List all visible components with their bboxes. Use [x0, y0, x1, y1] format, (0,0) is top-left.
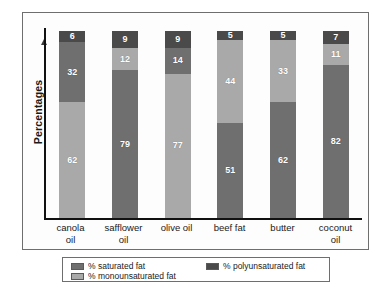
legend-label-polyunsaturated: % polyunsaturated fat [223, 261, 305, 271]
bar-segment-value: 9 [175, 35, 180, 44]
legend-label-monounsaturated: % monounsaturated fat [88, 271, 176, 281]
x-axis-label-line2: oil [300, 234, 372, 246]
x-axis-labels: canolaoilsaffloweroilolive oilbeef fatbu… [44, 222, 362, 250]
bar-beef-fat: 54451 [217, 31, 243, 218]
legend: % saturated fat % monounsaturated fat % … [62, 257, 330, 282]
bar-segment-sat: 79 [112, 70, 138, 218]
bar-segment-poly: 7 [323, 31, 349, 44]
bar-segment-poly: 5 [270, 31, 296, 40]
bar-butter: 53362 [270, 31, 296, 218]
legend-label-saturated: % saturated fat [88, 261, 145, 271]
bar-segment-mono: 44 [217, 40, 243, 122]
bar-segment-value: 79 [120, 140, 130, 149]
legend-swatch-polyunsaturated-icon [206, 263, 219, 270]
x-axis-label: coconutoil [300, 222, 372, 245]
bar-olive-oil: 91477 [165, 31, 191, 218]
legend-item-monounsaturated: % monounsaturated fat [71, 271, 176, 281]
bar-segment-value: 14 [173, 56, 183, 65]
bar-canola-oil: 63262 [59, 31, 85, 218]
legend-swatch-monounsaturated-icon [71, 273, 84, 280]
bar-segment-value: 6 [70, 32, 75, 41]
bar-segment-value: 62 [278, 156, 288, 165]
x-axis-line [44, 218, 362, 220]
bar-segment-value: 11 [331, 50, 341, 59]
bar-segment-value: 51 [225, 166, 235, 175]
plot-area: 632629127991477544515336271182 [44, 28, 362, 220]
bar-segment-sat: 82 [323, 65, 349, 218]
bar-segment-value: 12 [120, 55, 130, 64]
legend-swatch-saturated-icon [71, 263, 84, 270]
bar-coconut-oil: 71182 [323, 31, 349, 218]
y-axis-title: Percentages [32, 57, 44, 167]
bar-segment-mono: 11 [323, 44, 349, 65]
bar-segment-value: 5 [228, 31, 233, 40]
bar-segment-value: 7 [333, 33, 338, 42]
bar-segment-value: 33 [278, 67, 288, 76]
bar-segment-mono: 62 [59, 102, 85, 218]
bar-segment-poly: 5 [217, 31, 243, 40]
bar-segment-mono: 12 [112, 48, 138, 70]
bar-segment-mono: 33 [270, 40, 296, 102]
bar-segment-sat: 51 [217, 123, 243, 218]
x-axis-label-line1: coconut [300, 222, 372, 234]
bar-segment-poly: 9 [112, 31, 138, 48]
legend-item-polyunsaturated: % polyunsaturated fat [206, 261, 305, 271]
bar-segment-value: 62 [67, 156, 77, 165]
bar-segment-value: 44 [225, 77, 235, 86]
bar-segment-value: 32 [67, 68, 77, 77]
bar-segment-value: 82 [331, 137, 341, 146]
bars-container: 632629127991477544515336271182 [46, 31, 362, 218]
bar-segment-value: 9 [122, 35, 127, 44]
bar-segment-poly: 6 [59, 31, 85, 42]
bar-segment-value: 77 [173, 141, 183, 150]
bar-segment-sat: 62 [270, 102, 296, 218]
bar-segment-poly: 9 [165, 31, 191, 48]
bar-segment-mono: 77 [165, 74, 191, 218]
bar-safflower-oil: 91279 [112, 31, 138, 218]
bar-segment-sat: 14 [165, 48, 191, 74]
x-axis-label-line2: oil [88, 234, 160, 246]
legend-item-saturated: % saturated fat [71, 261, 145, 271]
bar-segment-sat: 32 [59, 42, 85, 102]
chart-root: Percentages 6326291279914775445153362711… [0, 0, 391, 285]
bar-segment-value: 5 [280, 31, 285, 40]
